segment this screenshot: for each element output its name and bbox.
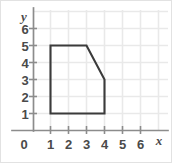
x-tick-label-2: 2 bbox=[65, 137, 72, 152]
origin-label: 0 bbox=[20, 137, 27, 152]
x-tick-label-5: 5 bbox=[119, 137, 126, 152]
y-tick-label-1: 1 bbox=[21, 107, 28, 122]
x-tick-label-1: 1 bbox=[47, 137, 54, 152]
coordinate-plane-svg: y 6 5 4 3 2 1 0 1 2 3 4 5 6 x bbox=[0, 0, 172, 163]
horizontal-gridlines bbox=[33, 12, 168, 114]
coordinate-grid-figure: y 6 5 4 3 2 1 0 1 2 3 4 5 6 x bbox=[0, 0, 172, 163]
x-tick-label-4: 4 bbox=[101, 137, 109, 152]
y-tick-label-6: 6 bbox=[21, 22, 28, 37]
y-tick-label-4: 4 bbox=[21, 56, 29, 71]
x-axis-label: x bbox=[155, 133, 163, 148]
x-tick-label-6: 6 bbox=[137, 137, 144, 152]
y-tick-label-3: 3 bbox=[21, 73, 28, 88]
y-tick-label-5: 5 bbox=[21, 39, 28, 54]
y-tick-label-2: 2 bbox=[21, 90, 28, 105]
x-tick-label-3: 3 bbox=[83, 137, 90, 152]
